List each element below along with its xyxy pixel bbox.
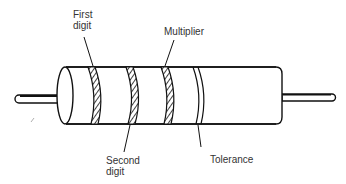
multiplier-leader <box>165 40 174 66</box>
stray-mark <box>31 118 34 122</box>
body-end-cap <box>57 67 73 124</box>
tolerance-label: Tolerance <box>210 154 253 165</box>
multiplier-label: Multiplier <box>164 26 204 37</box>
first-digit-leader <box>84 37 93 66</box>
second-digit-label: Second digit <box>106 155 140 177</box>
first-digit-label: First digit <box>73 9 92 31</box>
second-digit-leader <box>124 125 130 152</box>
tolerance-leader <box>198 125 201 147</box>
right-lead <box>282 94 336 101</box>
